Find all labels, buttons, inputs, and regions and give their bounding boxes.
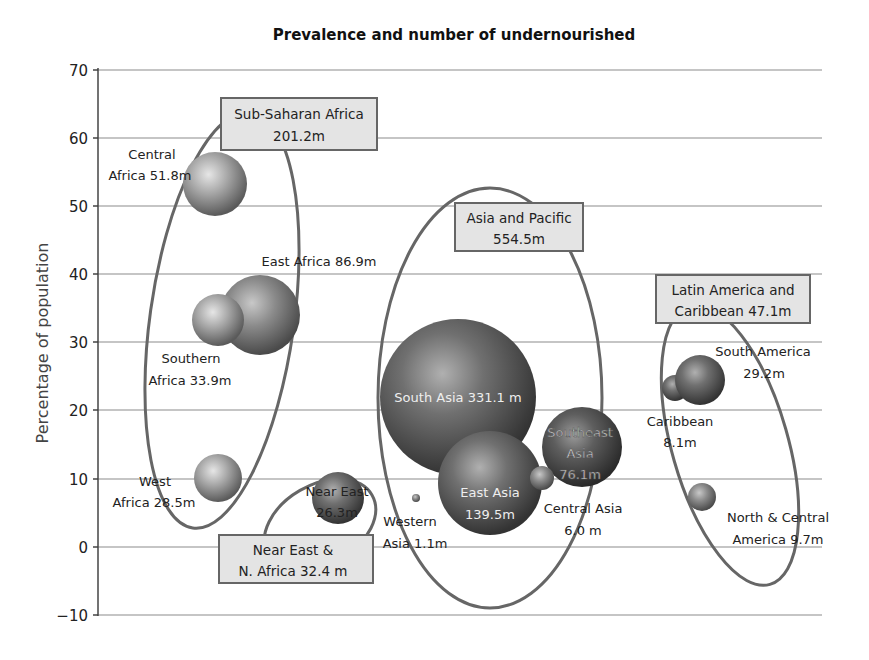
label-south-america-1: South America — [715, 344, 811, 359]
y-axis-label: Percentage of population — [33, 243, 52, 444]
label-central-asia-1: Central Asia — [544, 501, 623, 516]
y-tick-label: 70 — [69, 62, 88, 80]
y-tick-label: 0 — [78, 539, 88, 557]
group-box-sub-saharan-africa: Sub-Saharan Africa 201.2m — [221, 98, 377, 150]
bubble-central-asia — [530, 466, 554, 490]
bubble-western-asia — [412, 494, 420, 502]
group-box-line: 554.5m — [493, 231, 545, 247]
label-caribbean-2: 8.1m — [663, 435, 696, 450]
label-southeast-asia-1: Southeast — [547, 425, 613, 440]
y-tick-labels: 70 60 50 40 30 20 10 0 −10 — [56, 62, 88, 625]
label-east-africa: East Africa 86.9m — [261, 254, 376, 269]
label-southeast-asia-2: Asia — [566, 446, 593, 461]
label-near-east-1: Near East — [305, 484, 368, 499]
label-caribbean-1: Caribbean — [647, 414, 714, 429]
label-south-asia: South Asia 331.1 m — [394, 390, 521, 405]
label-western-asia-2: Asia 1.1m — [383, 536, 448, 551]
group-box-near-east-n-africa: Near East & N. Africa 32.4 m — [219, 535, 373, 583]
chart-title: Prevalence and number of undernourished — [273, 26, 635, 44]
y-tick-label: −10 — [56, 607, 88, 625]
group-box-line: 201.2m — [273, 128, 325, 144]
label-north-central-america-2: America 9.7m — [732, 532, 823, 547]
y-tick-label: 40 — [69, 266, 88, 284]
label-west-africa-2: Africa 28.5m — [113, 495, 196, 510]
bubble-southern-africa — [192, 294, 244, 346]
bubble-chart: Prevalence and number of undernourished … — [0, 0, 869, 660]
y-tick-label: 60 — [69, 130, 88, 148]
group-box-line: Near East & — [253, 542, 334, 558]
y-tick-label: 30 — [69, 334, 88, 352]
group-box-line: Asia and Pacific — [466, 210, 571, 226]
label-southeast-asia-3: 76.1m — [559, 467, 601, 482]
label-east-asia-1: East Asia — [460, 485, 519, 500]
bubble-west-africa — [194, 454, 242, 502]
group-box-line: Caribbean 47.1m — [675, 303, 792, 319]
label-south-america-2: 29.2m — [743, 366, 785, 381]
group-box-line: Sub-Saharan Africa — [234, 106, 363, 122]
bubble-south-america — [675, 355, 725, 405]
label-west-africa-1: West — [139, 474, 171, 489]
group-box-line: N. Africa 32.4 m — [239, 563, 348, 579]
y-tick-label: 20 — [69, 402, 88, 420]
label-southern-africa-1: Southern — [161, 351, 220, 366]
label-southern-africa-2: Africa 33.9m — [149, 373, 232, 388]
label-central-asia-2: 6.0 m — [564, 523, 601, 538]
y-tick-label: 10 — [69, 471, 88, 489]
group-box-line: Latin America and — [671, 282, 794, 298]
y-tick-label: 50 — [69, 198, 88, 216]
label-central-africa-1: Central — [128, 147, 175, 162]
bubble-central-africa — [183, 152, 247, 216]
label-east-asia-2: 139.5m — [465, 507, 515, 522]
label-central-africa-2: Africa 51.8m — [109, 168, 192, 183]
label-near-east-2: 26.3m — [316, 505, 358, 520]
group-box-latin-america: Latin America and Caribbean 47.1m — [656, 275, 810, 323]
label-western-asia-1: Western — [383, 514, 436, 529]
group-box-asia-pacific: Asia and Pacific 554.5m — [455, 203, 583, 251]
label-north-central-america-1: North & Central — [727, 510, 829, 525]
bubble-north-central-america — [688, 483, 716, 511]
